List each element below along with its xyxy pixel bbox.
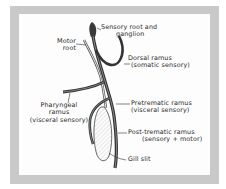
label-gill-slit: Gill slit: [128, 156, 151, 163]
gill-slit-shape: [94, 107, 112, 161]
label-dorsal-ramus: Dorsal ramus (somatic sensory): [128, 55, 190, 70]
label-motor-root: Motor root: [50, 38, 76, 53]
label-sensory-root: Sensory root and ganglion: [101, 24, 157, 39]
label-posttrematic-ramus: Post-trematic ramus (sensory + motor): [128, 129, 202, 144]
label-pretrematic-ramus: Pretrematic ramus (visceral sensory): [131, 100, 192, 115]
pharyngeal-ramus: [63, 82, 104, 92]
sensory-root-ganglion: [89, 22, 96, 37]
label-pharyngeal-ramus: Pharyngeal ramus (visceral sensory): [27, 102, 91, 124]
